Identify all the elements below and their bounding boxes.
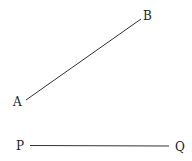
point-label-q: Q: [175, 140, 185, 154]
diagram-canvas: A B P Q: [0, 0, 192, 161]
point-label-b: B: [143, 9, 152, 23]
segment-ab: [26, 19, 141, 100]
segment-pq: [30, 146, 169, 147]
point-label-p: P: [16, 139, 24, 153]
point-label-a: A: [12, 95, 22, 109]
